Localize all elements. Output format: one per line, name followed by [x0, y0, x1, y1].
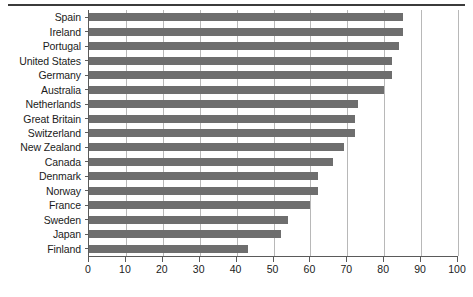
- x-tick: [125, 257, 126, 262]
- x-tick: [383, 257, 384, 262]
- category-label: Ireland: [0, 24, 86, 38]
- x-tick: [420, 257, 421, 262]
- category-tick: [85, 75, 89, 76]
- category-axis-labels: SpainIrelandPortugalUnited StatesGermany…: [0, 10, 86, 256]
- category-tick: [85, 176, 89, 177]
- bar-row: [89, 169, 458, 183]
- category-tick: [85, 234, 89, 235]
- x-tick-label: 0: [85, 263, 91, 275]
- category-label: Australia: [0, 82, 86, 96]
- category-tick: [85, 161, 89, 162]
- bar: [89, 158, 333, 166]
- bar: [89, 143, 344, 151]
- bar: [89, 71, 392, 79]
- bar: [89, 129, 355, 137]
- category-tick: [85, 248, 89, 249]
- category-label: United States: [0, 53, 86, 67]
- category-label: New Zealand: [0, 140, 86, 154]
- x-tick-label: 10: [119, 263, 131, 275]
- bar: [89, 86, 384, 94]
- x-tick-label: 30: [193, 263, 205, 275]
- category-tick: [85, 60, 89, 61]
- category-label: Sweden: [0, 213, 86, 227]
- category-label: Switzerland: [0, 126, 86, 140]
- category-label: Great Britain: [0, 111, 86, 125]
- bar: [89, 187, 318, 195]
- bar-row: [89, 53, 458, 67]
- bar: [89, 28, 403, 36]
- x-axis-ticks: [88, 257, 457, 262]
- category-tick: [85, 104, 89, 105]
- top-divider-rule: [8, 4, 465, 6]
- x-tick: [309, 257, 310, 262]
- x-tick-label: 70: [340, 263, 352, 275]
- category-tick: [85, 46, 89, 47]
- bar: [89, 13, 403, 21]
- x-axis-tick-labels: 0102030405060708090100: [88, 263, 457, 279]
- category-tick: [85, 89, 89, 90]
- bar: [89, 201, 310, 209]
- category-label: Finland: [0, 242, 86, 256]
- category-label: Japan: [0, 227, 86, 241]
- bar: [89, 230, 281, 238]
- category-tick: [85, 205, 89, 206]
- bar: [89, 42, 399, 50]
- x-tick-label: 100: [448, 263, 466, 275]
- category-label: Denmark: [0, 169, 86, 183]
- category-tick: [85, 17, 89, 18]
- x-tick-label: 50: [267, 263, 279, 275]
- bar-chart: SpainIrelandPortugalUnited StatesGermany…: [0, 0, 473, 297]
- bar: [89, 216, 288, 224]
- category-tick: [85, 31, 89, 32]
- bar-row: [89, 213, 458, 227]
- x-tick-label: 20: [156, 263, 168, 275]
- bar: [89, 57, 392, 65]
- bar-row: [89, 24, 458, 38]
- bar-row: [89, 126, 458, 140]
- x-tick-label: 60: [304, 263, 316, 275]
- bar-row: [89, 82, 458, 96]
- bar-row: [89, 97, 458, 111]
- bar-row: [89, 140, 458, 154]
- category-tick: [85, 219, 89, 220]
- category-tick: [85, 190, 89, 191]
- x-tick: [346, 257, 347, 262]
- bar-series: [89, 10, 458, 256]
- bar-row: [89, 242, 458, 256]
- category-label: Netherlands: [0, 97, 86, 111]
- category-label: Spain: [0, 10, 86, 24]
- category-tick: [85, 118, 89, 119]
- bar-row: [89, 198, 458, 212]
- category-tick: [85, 132, 89, 133]
- category-label: Germany: [0, 68, 86, 82]
- category-label: Portugal: [0, 39, 86, 53]
- bar-row: [89, 111, 458, 125]
- bar-row: [89, 227, 458, 241]
- category-label: France: [0, 198, 86, 212]
- bar-row: [89, 39, 458, 53]
- bar-row: [89, 10, 458, 24]
- bar-row: [89, 155, 458, 169]
- bar-row: [89, 184, 458, 198]
- bar: [89, 245, 248, 253]
- x-tick: [457, 257, 458, 262]
- bar: [89, 100, 358, 108]
- plot-area: [88, 10, 458, 257]
- x-tick: [199, 257, 200, 262]
- bar: [89, 115, 355, 123]
- x-tick: [88, 257, 89, 262]
- gridline: [458, 10, 459, 256]
- category-label: Canada: [0, 155, 86, 169]
- bar-row: [89, 68, 458, 82]
- x-tick: [162, 257, 163, 262]
- category-tick: [85, 147, 89, 148]
- x-tick-label: 90: [414, 263, 426, 275]
- x-tick-label: 40: [230, 263, 242, 275]
- bar: [89, 172, 318, 180]
- x-tick: [236, 257, 237, 262]
- x-tick-label: 80: [377, 263, 389, 275]
- category-label: Norway: [0, 184, 86, 198]
- x-tick: [273, 257, 274, 262]
